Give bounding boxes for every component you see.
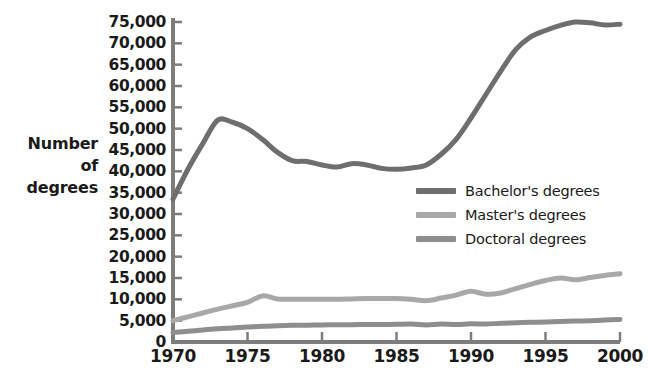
y-axis-tick-label: 60,000 <box>88 77 166 95</box>
x-axis-tick-label: 1980 <box>287 346 357 366</box>
y-axis-tick-label: 10,000 <box>88 290 166 308</box>
series-line <box>173 22 620 199</box>
series-line <box>173 319 620 332</box>
legend-swatch <box>416 236 456 242</box>
y-axis-tick-label: 45,000 <box>88 141 166 159</box>
y-axis-tick-label: 25,000 <box>88 226 166 244</box>
legend-item: Doctoral degrees <box>416 227 631 251</box>
x-axis-tick-label: 1995 <box>511 346 581 366</box>
y-axis-tick-label: 15,000 <box>88 269 166 287</box>
x-axis-tick-label: 1975 <box>213 346 283 366</box>
legend-item: Master's degrees <box>416 203 631 227</box>
y-axis-tick-label: 75,000 <box>88 13 166 31</box>
legend-item: Bachelor's degrees <box>416 179 631 203</box>
y-axis-title-line-1: Number <box>2 133 98 155</box>
legend-swatch <box>416 188 456 194</box>
x-axis-tick-label: 1985 <box>362 346 432 366</box>
legend-label: Master's degrees <box>465 207 586 223</box>
legend-label: Doctoral degrees <box>465 231 586 247</box>
y-axis-tick-label: 55,000 <box>88 98 166 116</box>
x-axis-tick-labels: 1970197519801985199019952000 <box>0 346 631 376</box>
y-axis-tick-label: 20,000 <box>88 248 166 266</box>
series-line <box>173 274 620 321</box>
y-axis-tick-label: 5,000 <box>88 312 166 330</box>
data-series-group <box>173 22 620 333</box>
y-axis-title-line-2: of <box>2 155 98 177</box>
y-axis-tick-label: 70,000 <box>88 34 166 52</box>
x-axis-tick-label: 1990 <box>436 346 506 366</box>
legend-label: Bachelor's degrees <box>465 183 600 199</box>
x-axis-tick-label: 2000 <box>585 346 648 366</box>
y-axis-title: Number of degrees <box>2 133 98 199</box>
chart-legend: Bachelor's degreesMaster's degreesDoctor… <box>416 179 631 251</box>
y-axis-tick-label: 40,000 <box>88 162 166 180</box>
y-axis-tick-label: 50,000 <box>88 120 166 138</box>
y-axis-tick-label: 35,000 <box>88 184 166 202</box>
y-axis-tick-label: 65,000 <box>88 56 166 74</box>
legend-swatch <box>416 212 456 218</box>
y-axis-title-line-3: degrees <box>2 177 98 199</box>
x-axis-tick-label: 1970 <box>138 346 208 366</box>
y-axis-tick-label: 30,000 <box>88 205 166 223</box>
